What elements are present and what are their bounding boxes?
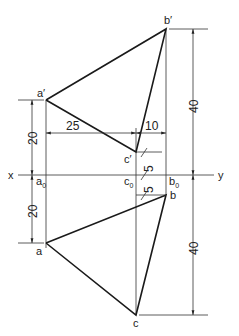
axis-label-x: x: [8, 169, 14, 181]
label-a-prime: a′: [37, 87, 45, 99]
tick-c-prime-top: [141, 148, 147, 157]
label-c: c: [133, 317, 139, 329]
dim-cb-horizontal: 10: [145, 119, 159, 133]
label-a0: a0: [36, 175, 46, 189]
label-c0: c0: [124, 175, 134, 189]
label-b-prime: b′: [164, 14, 172, 26]
label-b: b: [170, 189, 176, 201]
dim-a-prime-height: 20: [26, 131, 40, 145]
dim-a-depth: 20: [26, 204, 40, 218]
label-b0: b0: [169, 175, 179, 189]
dim-ac-horizontal: 25: [66, 119, 80, 133]
dim-b-depth: 5: [142, 186, 156, 193]
dim-c-prime-height: 5: [142, 165, 156, 172]
front-view-triangle: [46, 29, 166, 152]
projection-drawing: x y 20 20 40 40 25 10 5 5 a′ b′ c′ a0 c0…: [0, 0, 239, 336]
label-a: a: [36, 245, 43, 257]
axis-label-y: y: [218, 169, 224, 181]
label-c-prime: c′: [124, 153, 132, 165]
top-view-triangle: [46, 195, 166, 315]
dim-c-depth: 40: [187, 241, 201, 255]
dim-b-prime-height: 40: [187, 99, 201, 113]
